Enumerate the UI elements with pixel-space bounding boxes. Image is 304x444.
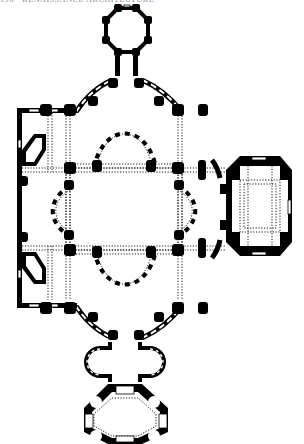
outer-walls <box>76 80 220 338</box>
north-chapel <box>102 4 152 76</box>
vault-lines <box>22 110 226 300</box>
inner-apses <box>53 133 196 284</box>
floor-plan <box>0 0 304 444</box>
apse-dot-lines <box>56 134 192 284</box>
west-wall <box>17 108 77 308</box>
east-apse <box>178 186 195 236</box>
south-chapel <box>84 384 168 444</box>
west-apse <box>53 186 70 236</box>
south-vestibule <box>86 342 164 382</box>
east-annex <box>220 156 292 256</box>
piers <box>18 78 208 340</box>
